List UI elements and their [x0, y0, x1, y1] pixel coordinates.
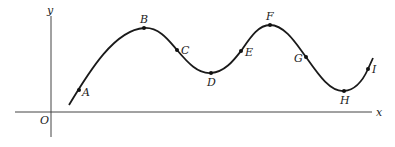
point-A	[77, 88, 81, 92]
y-axis-label: y	[46, 4, 54, 17]
point-F	[268, 23, 272, 27]
point-labels: A B C D E F G H I	[81, 10, 377, 107]
point-label-E: E	[244, 46, 253, 59]
point-label-B: B	[139, 13, 148, 26]
function-graph: y x O A B C D E F G H I	[0, 0, 395, 147]
point-label-D: D	[206, 76, 216, 89]
point-label-G: G	[294, 52, 303, 65]
point-label-F: F	[265, 10, 274, 23]
point-label-H: H	[339, 94, 350, 107]
point-H	[342, 89, 346, 93]
origin-label: O	[40, 114, 49, 127]
x-axis-label: x	[376, 106, 383, 119]
point-label-I: I	[371, 63, 377, 76]
point-E	[239, 49, 243, 53]
point-label-A: A	[81, 86, 90, 99]
point-C	[175, 48, 179, 52]
point-B	[142, 26, 146, 30]
point-D	[209, 71, 213, 75]
point-I	[366, 67, 370, 71]
point-label-C: C	[181, 44, 190, 57]
point-G	[304, 55, 308, 59]
function-curve	[69, 25, 373, 105]
